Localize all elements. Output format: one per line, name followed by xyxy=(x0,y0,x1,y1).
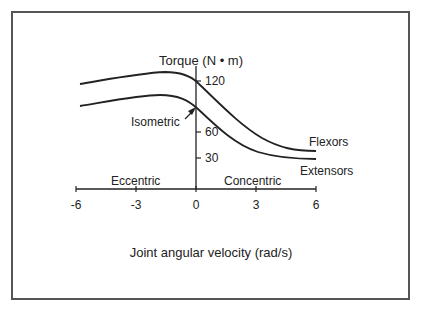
x-tick-label: 0 xyxy=(193,198,200,212)
flexors-label: Flexors xyxy=(309,135,348,149)
y-tick-label: 30 xyxy=(205,151,218,165)
flexors-curve xyxy=(80,72,316,151)
eccentric-label: Eccentric xyxy=(111,174,160,188)
x-tick-label: 6 xyxy=(313,198,320,212)
y-axis-ticks xyxy=(196,81,201,158)
y-tick-label: 120 xyxy=(205,74,225,88)
x-tick-label: -6 xyxy=(71,198,82,212)
y-tick-label: 60 xyxy=(205,125,218,139)
x-axis-title: Joint angular velocity (rad/s) xyxy=(0,245,422,260)
arrowhead-icon xyxy=(188,107,196,115)
concentric-label: Concentric xyxy=(224,174,281,188)
isometric-label: Isometric xyxy=(131,115,180,129)
extensors-curve xyxy=(80,95,316,159)
x-tick-label: -3 xyxy=(131,198,142,212)
y-axis-title: Torque (N • m) xyxy=(159,53,243,68)
x-tick-label: 3 xyxy=(253,198,260,212)
extensors-label: Extensors xyxy=(300,164,353,178)
